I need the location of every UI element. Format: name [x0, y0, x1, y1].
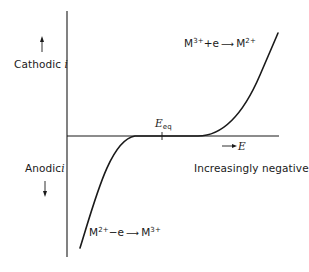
polarization-curve	[80, 33, 278, 248]
cathodic-label: Cathodic i	[14, 59, 68, 70]
anodic-text: Anodic	[25, 162, 61, 174]
product: M	[236, 37, 245, 49]
current-symbol: i	[61, 162, 64, 174]
product: M	[141, 226, 150, 238]
eq-potential-label: Eeq	[155, 118, 172, 129]
current-symbol: i	[65, 58, 68, 70]
cathodic-text: Cathodic	[14, 58, 61, 70]
direction-label: Increasingly negative	[194, 163, 309, 174]
reaction-arrow-icon: ⟶	[221, 39, 234, 49]
anodic-label: Anodici	[25, 163, 65, 174]
product-charge: 2+	[245, 37, 256, 45]
eq-subscript: eq	[163, 123, 172, 131]
reactant: M	[184, 37, 193, 49]
potential-symbol: E	[238, 141, 246, 152]
arrow-right-icon	[222, 144, 237, 148]
reactant-charge: 3+	[193, 37, 204, 45]
operation: −e	[109, 226, 124, 238]
product-charge: 3+	[150, 226, 161, 234]
reactant-charge: 2+	[98, 226, 109, 234]
reactant: M	[89, 226, 98, 238]
arrow-down-icon	[43, 181, 47, 197]
cathodic-reaction: M3++e⟶M2+	[184, 38, 256, 49]
arrow-up-icon	[40, 36, 44, 52]
eq-symbol: E	[155, 117, 163, 129]
anodic-reaction: M2+−e⟶M3+	[89, 227, 161, 238]
operation: +e	[204, 37, 219, 49]
reaction-arrow-icon: ⟶	[126, 228, 139, 238]
